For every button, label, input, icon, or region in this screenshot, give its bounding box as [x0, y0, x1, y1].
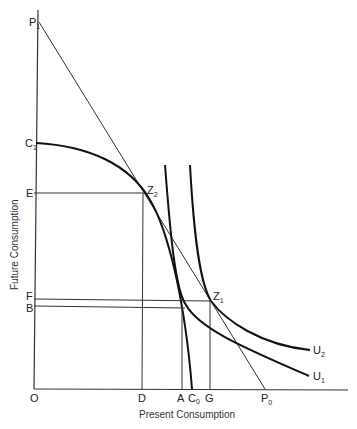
label-g: G: [205, 392, 214, 404]
label-z2: Z2: [147, 184, 158, 198]
label-p1: P1: [29, 16, 40, 30]
label-e: E: [26, 187, 33, 199]
y-axis-title: Future Consumption: [9, 199, 20, 290]
label-z1: Z1: [213, 290, 224, 304]
guide-b-tangency: [34, 306, 185, 308]
label-origin: O: [30, 392, 39, 404]
label-b: B: [26, 302, 33, 314]
production-possibility-curve: [36, 143, 192, 389]
label-u2: U2: [313, 344, 325, 358]
guide-z2-d: [142, 193, 143, 389]
label-c1: C1: [25, 137, 37, 151]
label-p0: P0: [261, 392, 272, 406]
label-c0: C0: [188, 392, 200, 405]
x-axis-title: Present Consumption: [139, 409, 235, 420]
y-axis: [34, 10, 38, 389]
intertemporal-choice-diagram: P1 C1 E F B Z2 Z1 U2 U1 O D A C0 G P0 Pr…: [0, 0, 357, 429]
label-f: F: [26, 290, 33, 302]
label-d: D: [138, 392, 146, 404]
label-u1: U1: [313, 370, 325, 384]
x-axis: [34, 389, 348, 390]
label-a: A: [177, 392, 185, 404]
indifference-curve-u2: [190, 165, 310, 350]
